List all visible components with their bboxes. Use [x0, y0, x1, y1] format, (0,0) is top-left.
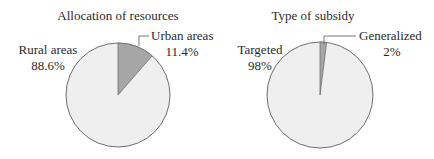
slice-value-rural: 88.6%: [31, 58, 65, 73]
slice-value-generalized: 2%: [383, 44, 401, 59]
slice-label-urban: Urban areas: [151, 28, 213, 43]
pie-chart-allocation: Allocation of resources Urban areas 11.4…: [19, 8, 214, 147]
slice-label-targeted: Targeted: [237, 42, 283, 57]
leader-line: [139, 36, 149, 46]
slice-label-rural: Rural areas: [19, 42, 78, 57]
slice-value-targeted: 98%: [248, 58, 272, 73]
pie-charts-figure: Allocation of resources Urban areas 11.4…: [0, 0, 434, 159]
pie-chart-subsidy: Type of subsidy Generalized 2% Targeted …: [237, 8, 422, 148]
slice-value-urban: 11.4%: [165, 44, 198, 59]
chart-title: Allocation of resources: [57, 8, 178, 23]
chart-title: Type of subsidy: [272, 8, 355, 23]
slice-label-generalized: Generalized: [359, 28, 422, 43]
